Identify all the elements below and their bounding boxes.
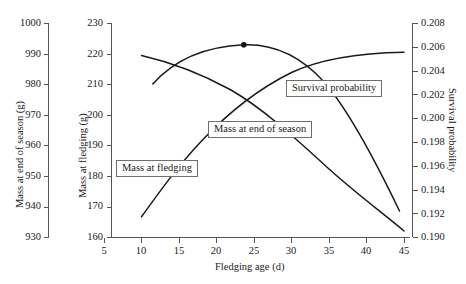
tick-bottom-40: 40 xyxy=(352,245,380,256)
tick-right-0200: 0.200 xyxy=(421,112,445,123)
tick-right-0194: 0.194 xyxy=(421,184,445,195)
tick-right-0192: 0.192 xyxy=(421,208,445,219)
tick-bottom-15: 15 xyxy=(165,245,193,256)
figure-container: 1000 990 980 970 960 950 940 930 230 220… xyxy=(0,0,466,284)
axis-title-mass-at-fledging: Mass at fledging (g) xyxy=(77,113,89,198)
axis-title-survival-probability: Survival probability xyxy=(446,88,458,172)
axis-title-mass-end-of-season: Mass at end of season (g) xyxy=(14,101,26,208)
tick-right-0198: 0.198 xyxy=(421,136,445,147)
tick-left-inner-170: 170 xyxy=(66,200,103,211)
tick-left-inner-210: 210 xyxy=(66,78,103,89)
tick-right-0196: 0.196 xyxy=(421,160,445,171)
tick-bottom-20: 20 xyxy=(202,245,230,256)
ticks-left-inner xyxy=(107,24,112,238)
callout-mass-at-fledging: Mass at fledging xyxy=(116,160,198,177)
tick-bottom-45: 45 xyxy=(390,245,418,256)
tick-right-0204: 0.204 xyxy=(421,65,445,76)
survival-optimum-marker xyxy=(241,42,247,48)
ticks-left-outer xyxy=(44,24,49,238)
ticks-right xyxy=(413,24,418,238)
tick-bottom-30: 30 xyxy=(277,245,305,256)
tick-left-inner-230: 230 xyxy=(66,17,103,28)
ticks-bottom xyxy=(104,238,404,243)
tick-bottom-35: 35 xyxy=(315,245,343,256)
tick-bottom-25: 25 xyxy=(240,245,268,256)
tick-right-0190: 0.190 xyxy=(421,231,445,242)
callout-mass-end-of-season: Mass at end of season xyxy=(208,121,312,138)
tick-right-0208: 0.208 xyxy=(421,17,445,28)
tick-left-outer-980: 980 xyxy=(0,78,41,89)
tick-left-outer-1000: 1000 xyxy=(0,17,41,28)
axis-title-fledging-age: Fledging age (d) xyxy=(215,261,284,273)
tick-left-outer-930: 930 xyxy=(0,231,41,242)
tick-right-0206: 0.206 xyxy=(421,41,445,52)
tick-bottom-10: 10 xyxy=(127,245,155,256)
tick-left-outer-990: 990 xyxy=(0,48,41,59)
callout-survival-probability: Survival probability xyxy=(286,80,382,97)
tick-bottom-5: 5 xyxy=(90,245,118,256)
tick-left-inner-220: 220 xyxy=(66,48,103,59)
tick-right-0202: 0.202 xyxy=(421,89,445,100)
tick-left-inner-160: 160 xyxy=(66,231,103,242)
